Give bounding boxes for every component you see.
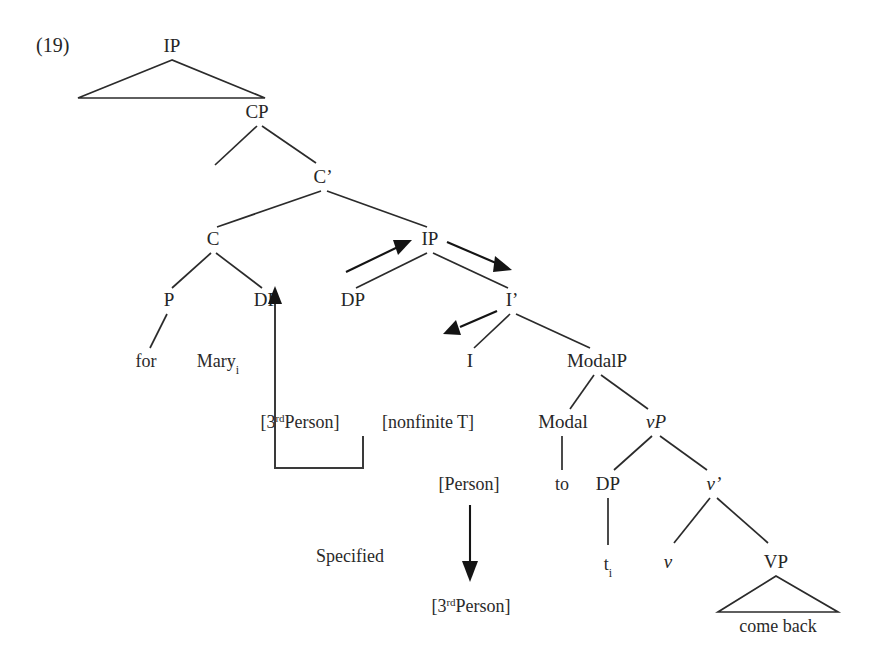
node-vp-big: VP	[764, 551, 788, 572]
node-i: I	[467, 350, 473, 371]
terminal-come-back: come back	[739, 616, 816, 636]
branch-vp-dp	[614, 436, 652, 470]
branch-vbar-vp	[717, 498, 768, 543]
node-c-bar: C’	[314, 166, 333, 187]
branch-vp-vbar	[660, 436, 707, 470]
node-p: P	[164, 289, 175, 310]
branch-ip-dp	[356, 253, 427, 288]
terminal-trace: ti	[604, 554, 613, 580]
branch-cp-cbar	[262, 126, 316, 163]
feature-third-person-source: [3rdPerson]	[260, 412, 339, 432]
node-i-bar: I’	[506, 289, 519, 310]
feature-third-person-result: [3rdPerson]	[431, 596, 510, 616]
branch-c-dp	[216, 253, 262, 288]
triangle-ip-top	[78, 60, 265, 98]
syntax-tree-figure: (19) IP CP C’ C IP P DP for DP I’	[0, 0, 891, 661]
valuation-arrow-icon	[462, 505, 478, 582]
terminal-for: for	[136, 351, 157, 371]
node-ip-top: IP	[164, 35, 181, 56]
branch-c-p	[172, 253, 211, 288]
terminal-mary: Maryi	[197, 351, 240, 377]
branch-cbar-c	[217, 191, 321, 227]
node-v-little: v	[664, 551, 673, 572]
node-modal: Modal	[538, 411, 588, 432]
terminal-to: to	[555, 474, 569, 494]
movement-arrow-i-icon	[443, 311, 497, 335]
syntax-tree-canvas: (19) IP CP C’ C IP P DP for DP I’	[0, 0, 891, 661]
node-cp: CP	[245, 101, 268, 122]
movement-arrow-ibar-icon	[447, 242, 512, 272]
feature-nonfinite-t: [nonfinite T]	[382, 412, 474, 432]
feature-person: [Person]	[439, 474, 500, 494]
node-ip-embedded: IP	[422, 228, 439, 249]
branch-p-for	[150, 314, 167, 348]
node-modalp: ModalP	[567, 350, 627, 371]
node-v-bar: v’	[707, 473, 722, 494]
branch-cp-left	[215, 126, 257, 165]
agree-bracket-connector	[268, 286, 363, 468]
annotation-specified: Specified	[316, 546, 384, 566]
node-vp-little: vP	[646, 411, 666, 432]
branch-modalp-modal	[570, 375, 594, 409]
node-dp-subject: DP	[596, 473, 620, 494]
branch-vbar-v	[674, 498, 710, 543]
node-c: C	[207, 228, 220, 249]
node-dp-spec-ip: DP	[341, 289, 365, 310]
triangle-vp	[718, 576, 838, 612]
branch-modalp-vp	[601, 375, 648, 409]
branch-cbar-ip	[327, 191, 427, 227]
movement-arrow-ip-icon	[346, 240, 412, 272]
figure-number: (19)	[36, 34, 69, 57]
branch-ibar-modalp	[516, 314, 590, 348]
